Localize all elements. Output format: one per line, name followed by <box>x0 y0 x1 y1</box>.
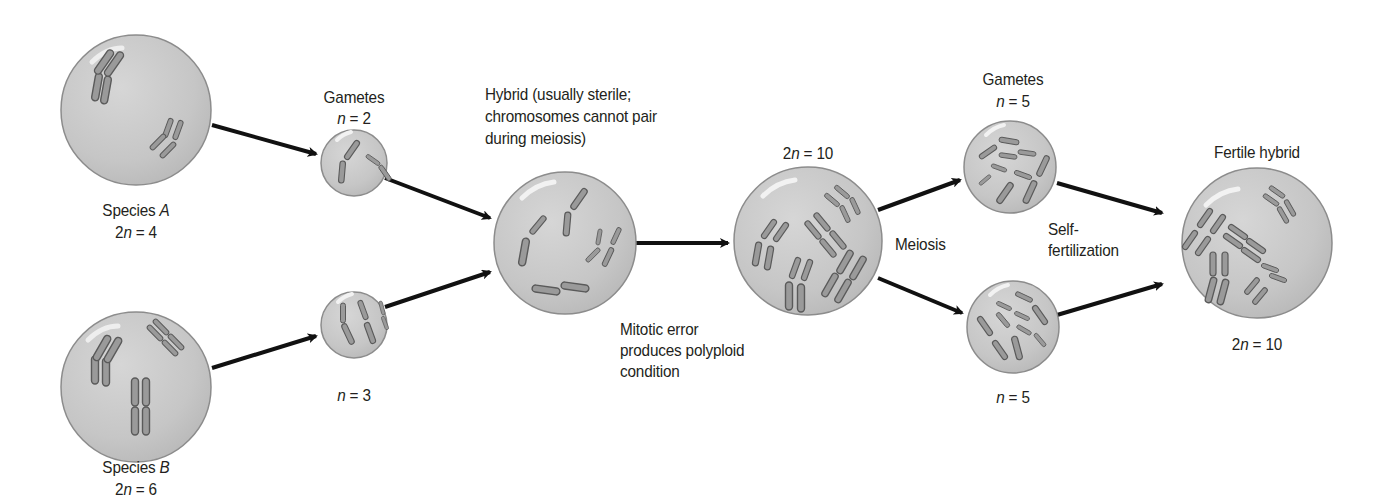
arrow-gamete-n3-to-hybrid <box>385 272 490 307</box>
hybrid-title: Hybrid (usually sterile; chromosomes can… <box>485 84 657 150</box>
species-b-title: Species <box>102 458 159 477</box>
count-var: n <box>1240 335 1248 354</box>
count-var: n <box>996 388 1004 407</box>
arrow-gamete-bottom-to-fertile <box>1057 284 1162 315</box>
gametes-a-count: n = 2 <box>309 108 399 129</box>
hybrid-title-line-1: Hybrid (usually sterile; <box>485 84 657 106</box>
self-fertilization-label: Self- fertilization <box>1048 219 1119 261</box>
count-var: n <box>123 480 131 499</box>
count-suffix: = 5 <box>1005 388 1030 407</box>
cell-gametes-n3 <box>321 292 389 358</box>
mitotic-error-label: Mitotic error produces polyploid conditi… <box>620 319 744 382</box>
species-b-label: Species B <box>91 457 181 478</box>
count-prefix: 2 <box>115 480 123 499</box>
count-var: n <box>337 109 345 128</box>
count-prefix: 2 <box>115 223 123 242</box>
gametes-top-title: Gametes <box>968 69 1058 90</box>
gametes-bottom-count: n = 5 <box>968 387 1058 408</box>
meiosis-label: Meiosis <box>895 234 946 255</box>
count-suffix: = 10 <box>800 144 834 163</box>
arrow-species-b-to-gametes <box>212 336 316 368</box>
species-a-label: Species A <box>91 200 181 221</box>
self-fertilization-line-2: fertilization <box>1048 240 1119 261</box>
count-suffix: = 2 <box>346 109 371 128</box>
count-var: n <box>996 92 1004 111</box>
count-var: n <box>791 144 799 163</box>
cell-hybrid-sterile <box>494 172 636 314</box>
cell-fertile-hybrid <box>1181 168 1332 318</box>
arrow-species-a-to-gametes <box>212 125 316 154</box>
species-b-count: 2n = 6 <box>91 479 181 500</box>
arrow-gamete-n2-to-hybrid <box>385 178 490 218</box>
self-fertilization-line-1: Self- <box>1048 219 1119 240</box>
mitotic-error-line-3: condition <box>620 361 744 382</box>
mitotic-error-line-2: produces polyploid <box>620 340 744 361</box>
species-a-count: 2n = 4 <box>91 222 181 243</box>
polyploid-count: 2n = 10 <box>763 143 853 164</box>
hybrid-title-line-2: chromosomes cannot pair <box>485 106 657 128</box>
count-suffix: = 10 <box>1249 335 1283 354</box>
count-var: n <box>337 386 345 405</box>
cell-gametes-n2 <box>321 130 392 196</box>
species-a-letter: A <box>160 201 170 220</box>
cell-gametes-n5-top <box>964 121 1056 213</box>
fertile-hybrid-count: 2n = 10 <box>1199 334 1316 355</box>
arrow-gamete-top-to-fertile <box>1057 183 1162 213</box>
count-var: n <box>123 223 131 242</box>
fertile-hybrid-title: Fertile hybrid <box>1199 142 1316 163</box>
cell-polyploid-2n10 <box>734 167 882 315</box>
gametes-b-count: n = 3 <box>309 385 399 406</box>
arrow-polyploid-to-gamete-top <box>878 180 960 210</box>
cell-gametes-n5-bottom <box>967 281 1059 373</box>
hybrid-title-line-3: during meiosis) <box>485 128 657 150</box>
cell-species-a <box>61 35 211 185</box>
gametes-top-count: n = 5 <box>968 91 1058 112</box>
count-suffix: = 5 <box>1005 92 1030 111</box>
diagram-canvas <box>0 0 1376 500</box>
gametes-a-title: Gametes <box>309 87 399 108</box>
cell-species-b <box>61 312 211 462</box>
mitotic-error-line-1: Mitotic error <box>620 319 744 340</box>
count-suffix: = 6 <box>132 480 157 499</box>
allopolyploidy-diagram: Species A 2n = 4 Species B 2n = 6 Gamete… <box>0 0 1376 500</box>
count-suffix: = 3 <box>346 386 371 405</box>
species-a-title: Species <box>102 201 159 220</box>
count-suffix: = 4 <box>132 223 157 242</box>
arrow-polyploid-to-gamete-bottom <box>878 278 962 313</box>
species-b-letter: B <box>160 458 170 477</box>
